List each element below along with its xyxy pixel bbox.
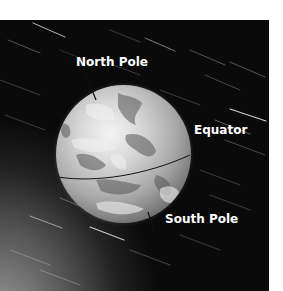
north-pole-pointer	[86, 75, 96, 100]
south-pole-pointer	[148, 212, 154, 230]
south-pole-label: South Pole	[165, 212, 238, 226]
equator-label: Equator	[194, 123, 247, 137]
earth-illustration: North Pole Equator South Pole	[0, 20, 269, 291]
north-pole-label: North Pole	[76, 55, 148, 69]
